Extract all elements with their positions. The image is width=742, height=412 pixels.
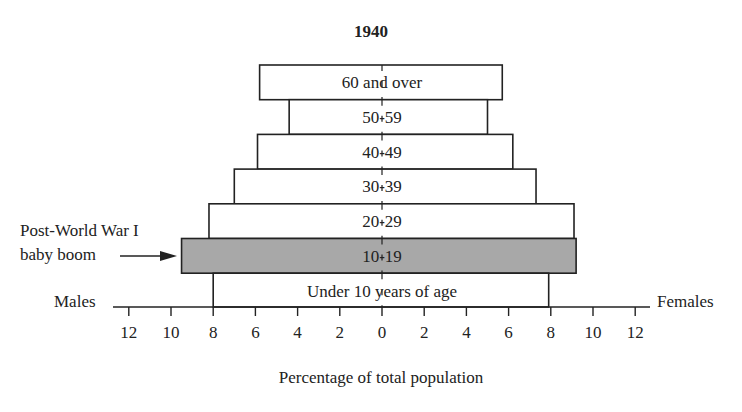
x-axis-label: Percentage of total population <box>0 368 742 388</box>
annotation-line2: baby boom <box>20 245 96 265</box>
bar-label: 30-39 <box>362 177 402 196</box>
x-tick-label: 12 <box>120 323 137 342</box>
x-tick-label: 8 <box>209 323 218 342</box>
x-tick-label: 12 <box>627 323 644 342</box>
x-tick-label: 10 <box>585 323 602 342</box>
females-label: Females <box>657 292 714 312</box>
x-tick-label: 6 <box>504 323 513 342</box>
bar-label: 50-59 <box>362 108 402 127</box>
x-tick-label: 6 <box>251 323 260 342</box>
x-tick-label: 0 <box>378 323 387 342</box>
bar-label: 10-19 <box>362 247 402 266</box>
annotation-line1: Post-World War I <box>20 221 139 241</box>
bar-label: 40-49 <box>362 143 402 162</box>
bar-label: 20-29 <box>362 212 402 231</box>
x-tick-label: 2 <box>420 323 429 342</box>
bar-label: Under 10 years of age <box>307 282 457 301</box>
x-tick-label: 10 <box>163 323 180 342</box>
population-pyramid-chart: 60 and over50-5940-4930-3920-2910-19Unde… <box>0 0 742 412</box>
x-tick-label: 4 <box>293 323 302 342</box>
arrowhead-icon <box>160 251 177 261</box>
x-tick-label: 2 <box>336 323 345 342</box>
x-tick-label: 8 <box>547 323 556 342</box>
bar-label: 60 and over <box>342 73 423 92</box>
x-tick-label: 4 <box>462 323 471 342</box>
males-label: Males <box>54 292 96 312</box>
